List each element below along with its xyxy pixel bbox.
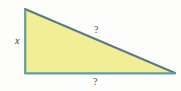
- triangle-graphic: [0, 0, 181, 91]
- base-label: ?: [93, 77, 97, 87]
- vertical-leg-label: x: [15, 36, 19, 46]
- hypotenuse-label: ?: [94, 25, 98, 35]
- figure-container: x ? ?: [0, 0, 181, 91]
